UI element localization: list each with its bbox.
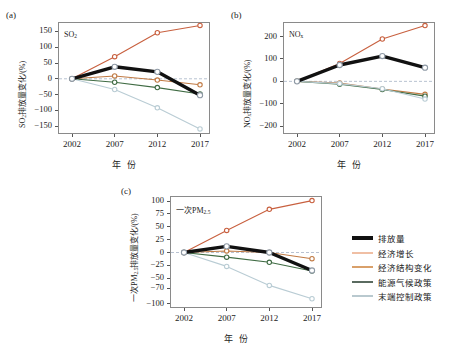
y-tick-mark	[167, 252, 170, 253]
legend-item: 能源气候政策	[352, 276, 432, 288]
y-tick-label: 100	[130, 195, 164, 205]
legend-color-swatch	[352, 295, 373, 297]
y-tick-mark	[167, 239, 170, 240]
y-tick-label: 75	[130, 208, 164, 218]
y-tick-mark	[167, 213, 170, 214]
y-tick-label: −100	[130, 298, 164, 308]
y-tick-label: −70	[130, 282, 164, 292]
x-axis-label: 年 份	[224, 332, 250, 345]
legend-label: 末端控制政策	[378, 290, 432, 302]
legend-color-swatch	[352, 281, 373, 283]
legend-item: 末端控制政策	[352, 290, 432, 302]
legend-label: 排放量	[378, 232, 405, 244]
legend-color-swatch	[352, 236, 373, 240]
legend-item: 经济结构变化	[352, 261, 432, 273]
y-tick-label: 25	[130, 234, 164, 244]
y-tick-label: −50	[130, 272, 164, 282]
y-tick-label: −25	[130, 259, 164, 269]
series-species-label: 一次PM2.5	[176, 204, 210, 215]
legend-item: 排放量	[352, 232, 405, 244]
x-tick-mark	[269, 308, 270, 311]
y-tick-mark	[167, 226, 170, 227]
x-tick-label: 2007	[207, 313, 247, 323]
y-tick-mark	[167, 265, 170, 266]
legend-label: 能源气候政策	[378, 276, 432, 288]
x-tick-label: 2017	[292, 313, 332, 323]
y-tick-label: 50	[130, 221, 164, 231]
x-tick-label: 2002	[164, 313, 204, 323]
legend-item: 经济增长	[352, 247, 414, 259]
y-tick-mark	[167, 303, 170, 304]
legend-label: 经济增长	[378, 247, 414, 259]
y-tick-mark	[167, 201, 170, 202]
x-tick-mark	[312, 308, 313, 311]
x-tick-mark	[184, 308, 185, 311]
x-tick-label: 2012	[249, 313, 289, 323]
y-tick-label: 0	[130, 247, 164, 257]
chart-legend: 排放量经济增长经济结构变化能源气候政策末端控制政策	[352, 232, 451, 308]
legend-color-swatch	[352, 252, 373, 254]
legend-label: 经济结构变化	[378, 261, 432, 273]
y-tick-mark	[167, 278, 170, 279]
legend-color-swatch	[352, 266, 373, 268]
y-tick-mark	[167, 288, 170, 289]
x-tick-mark	[226, 308, 227, 311]
